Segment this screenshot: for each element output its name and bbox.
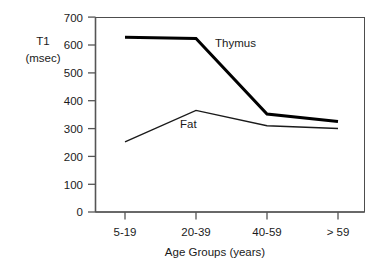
- x-axis-tick-labels: 5-19 20-39 40-59 > 59: [113, 226, 349, 238]
- y-tick-label-300: 300: [64, 123, 83, 135]
- x-tick-label-1: 20-39: [181, 226, 210, 238]
- x-axis-ticks: [125, 212, 338, 220]
- series-annotation-thymus: Thymus: [215, 37, 256, 49]
- y-axis-title: T1 (msec): [25, 35, 60, 64]
- y-axis-tick-labels: 700 600 500 400 300 200 100 0: [64, 12, 83, 219]
- y-tick-label-0: 0: [77, 206, 83, 218]
- y-tick-label-400: 400: [64, 95, 83, 107]
- x-axis-title: Age Groups (years): [165, 246, 266, 258]
- x-tick-label-2: 40-59: [252, 226, 281, 238]
- y-axis-title-line2: (msec): [25, 52, 60, 64]
- y-tick-label-600: 600: [64, 39, 83, 51]
- y-tick-label-100: 100: [64, 179, 83, 191]
- y-tick-label-500: 500: [64, 67, 83, 79]
- x-tick-label-0: 5-19: [113, 226, 136, 238]
- chart-figure: 700 600 500 400 300 200 100 0 T1 (msec) …: [0, 0, 392, 267]
- y-tick-label-700: 700: [64, 12, 83, 24]
- t1-vs-age-line-chart: 700 600 500 400 300 200 100 0 T1 (msec) …: [0, 0, 392, 267]
- y-axis-title-line1: T1: [36, 35, 49, 47]
- series-annotation-fat: Fat: [180, 118, 197, 130]
- y-tick-label-200: 200: [64, 151, 83, 163]
- y-axis-ticks: [88, 17, 96, 212]
- x-tick-label-3: > 59: [327, 226, 350, 238]
